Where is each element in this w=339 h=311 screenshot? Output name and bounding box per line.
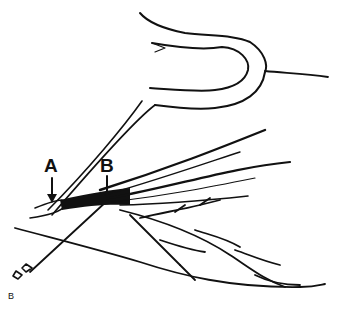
arrow-a bbox=[47, 178, 57, 203]
lower-outline bbox=[15, 228, 325, 287]
branching-vessels bbox=[120, 198, 300, 287]
illustration: A B B bbox=[0, 0, 339, 311]
label-a: A bbox=[44, 155, 58, 177]
fiber-bundle bbox=[60, 130, 290, 210]
upper-loop bbox=[140, 13, 328, 109]
duct-tip bbox=[30, 200, 65, 218]
label-b: B bbox=[100, 155, 114, 177]
panel-label: B bbox=[8, 291, 14, 301]
